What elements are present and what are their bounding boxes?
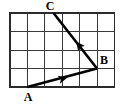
vertex-label-b: B [100,53,108,67]
vertex-label-a: A [24,90,33,104]
vertex-label-c: C [46,0,55,13]
vector-bc-line [54,13,98,69]
vector-diagram-figure: A B C [0,0,124,107]
vector-bc [54,13,98,69]
diagram-canvas: A B C [0,0,124,107]
